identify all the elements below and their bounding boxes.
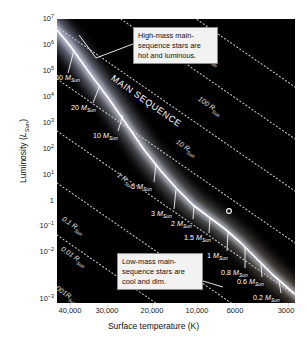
annotation-low-mass-line1: Low-mass main- [122, 257, 198, 267]
y-tick-label-1e-1: 10−1 [40, 223, 55, 231]
y-tick-label-1e2: 102 [43, 145, 54, 153]
y-tick-label-1e5: 105 [43, 67, 54, 75]
annotation-high-mass-line3: hot and luminous. [138, 51, 213, 61]
mass-label-1: 1 MSun [207, 252, 228, 259]
y-axis-title-subscript: Sun [24, 122, 30, 133]
y-axis-title: Luminosity (LSun) [18, 71, 28, 231]
mass-label-0.8: 0.8 MSun [221, 269, 248, 276]
annotation-low-mass-line2: sequence stars are [122, 267, 198, 277]
annotation-high-mass-line1: High-mass main- [138, 31, 213, 41]
y-tick-label-1e4: 104 [43, 93, 54, 101]
x-tick-label-30000: 30,000 [96, 306, 119, 315]
y-axis-title-end: ) [18, 119, 28, 122]
y-axis-title-symbol: L [18, 132, 28, 137]
x-tick-label-40000: 40,000 [59, 306, 82, 315]
y-axis-title-text: Luminosity ( [18, 137, 28, 183]
mass-label-0.6: 0.6 MSun [237, 278, 264, 285]
x-tick-label-20000: 20,000 [141, 306, 164, 315]
x-tick-label-6000: 6000 [227, 306, 244, 315]
sun-marker [227, 209, 232, 214]
y-tick-label-1e1: 101 [43, 171, 54, 179]
annotation-low-mass-line3: cool and dim. [122, 277, 198, 287]
mass-label-1.5: 1.5 MSun [184, 234, 211, 241]
mass-label-20: 20 MSun [71, 104, 96, 111]
y-tick-label-1e-3: 10−3 [40, 295, 55, 303]
plot-area: MAIN SEQUENCE 1000 RSun 100 RSun 10 RSun… [57, 19, 295, 303]
y-tick-label-1: 1 [50, 197, 54, 205]
x-tick-label-3000: 3000 [278, 306, 295, 315]
y-tick-label-1e-2: 10−2 [40, 249, 55, 257]
mass-label-0.2: 0.2 MSun [253, 294, 280, 301]
annotation-low-mass: Low-mass main- sequence stars are cool a… [117, 253, 203, 290]
hr-diagram-figure: 107 106 105 104 103 102 101 1 10−1 10−2 … [0, 0, 307, 348]
mass-label-60: 60 MSun [57, 74, 80, 81]
mass-label-3: 3 MSun [151, 210, 172, 217]
y-tick-label-1e7: 107 [43, 15, 54, 23]
x-tick-label-10000: 10,000 [186, 306, 209, 315]
mass-label-2: 2 MSun [171, 220, 192, 227]
mass-label-5: 5 MSun [131, 183, 152, 190]
annotation-high-mass: High-mass main- sequence stars are hot a… [133, 27, 218, 64]
y-tick-label-1e6: 106 [43, 42, 54, 50]
annotation-high-mass-line2: sequence stars are [138, 41, 213, 51]
x-axis-title: Surface temperature (K) [0, 321, 307, 331]
mass-label-10: 10 MSun [93, 132, 118, 139]
y-tick-label-1e3: 103 [43, 119, 54, 127]
